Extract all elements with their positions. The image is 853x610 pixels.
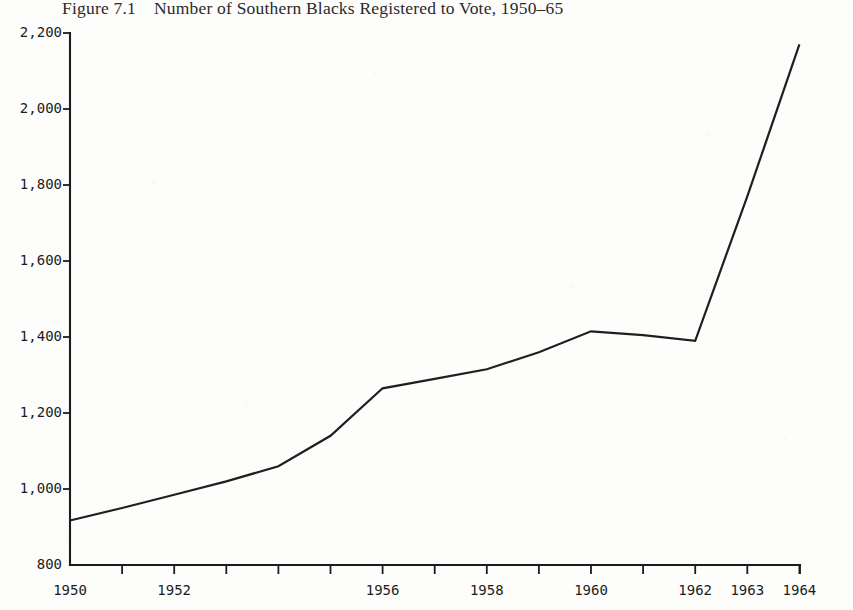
x-tick-label: 1964: [783, 582, 817, 598]
x-tick-label: 1952: [157, 582, 191, 598]
x-tick-label: 1956: [366, 582, 400, 598]
figure-page: Figure 7.1Number of Southern Blacks Regi…: [0, 0, 853, 610]
y-tick-label: 1,400: [0, 328, 62, 344]
chart-axes: [70, 33, 800, 565]
x-axis-ticks: [122, 565, 800, 574]
x-tick-label: 1962: [678, 582, 712, 598]
y-tick-label: 800: [0, 556, 62, 572]
y-tick-label: 1,000: [0, 480, 62, 496]
y-tick-label: 2,000: [0, 100, 62, 116]
y-tick-label: 2,200: [0, 24, 62, 40]
chart-series-group: [70, 44, 799, 520]
x-tick-label: 1960: [574, 582, 608, 598]
series-line-registered-voters: [70, 44, 799, 520]
x-tick-label: 1958: [470, 582, 504, 598]
x-tick-label: 1950: [53, 582, 87, 598]
x-tick-label: 1963: [730, 582, 764, 598]
y-tick-label: 1,800: [0, 176, 62, 192]
line-chart: [0, 0, 853, 610]
y-tick-label: 1,600: [0, 252, 62, 268]
y-tick-label: 1,200: [0, 404, 62, 420]
